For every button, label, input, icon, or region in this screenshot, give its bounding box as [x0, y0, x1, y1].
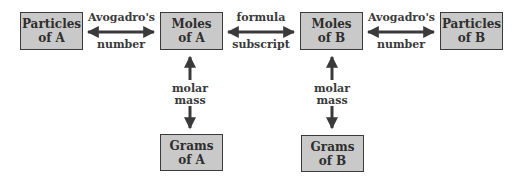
- box-label: Moles of A: [171, 17, 211, 45]
- box-moles-of-a: Moles of A: [160, 12, 223, 50]
- box-moles-of-b: Moles of B: [300, 12, 363, 50]
- box-label: Grams of B: [311, 140, 355, 168]
- label-avogadro-left: Avogadro's: [88, 11, 154, 24]
- label-subscript: subscript: [228, 38, 294, 51]
- box-label: Particles of B: [442, 17, 501, 45]
- box-grams-of-a: Grams of A: [160, 134, 223, 171]
- box-label: Particles of A: [22, 17, 81, 45]
- label-mass-b: mass: [307, 94, 357, 107]
- box-label: Moles of B: [311, 17, 351, 45]
- box-particles-of-b: Particles of B: [440, 12, 503, 50]
- label-mass-a: mass: [165, 94, 215, 107]
- label-avogadro-right: Avogadro's: [368, 11, 434, 24]
- label-number-right: number: [368, 38, 434, 51]
- box-particles-of-a: Particles of A: [20, 12, 83, 50]
- label-number-left: number: [88, 38, 154, 51]
- label-formula: formula: [228, 11, 294, 24]
- box-grams-of-b: Grams of B: [301, 135, 364, 172]
- box-label: Grams of A: [170, 139, 214, 167]
